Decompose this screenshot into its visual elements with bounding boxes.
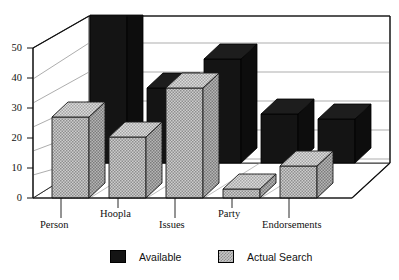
- bar-actual-search-hoopla: [109, 122, 162, 198]
- y-tick-label-50: 50: [2, 42, 22, 53]
- legend-label-actual-search: Actual Search: [247, 251, 312, 263]
- bar-actual-search-person: [52, 102, 105, 198]
- x-label-person: Person: [40, 219, 69, 230]
- bar-actual-search-issues: [166, 73, 219, 198]
- legend-item-available: Available: [110, 250, 181, 263]
- y-tick-label-30: 30: [2, 102, 22, 113]
- legend-label-available: Available: [139, 251, 181, 263]
- plot-area: 50 40 30 20 10 0 Person Hoopla Issues Pa…: [0, 0, 399, 280]
- x-label-party: Party: [218, 208, 240, 219]
- x-label-endorsements: Endorsements: [262, 219, 322, 230]
- y-tick-label-10: 10: [2, 162, 22, 173]
- chart-legend: Available Actual Search: [0, 247, 399, 269]
- x-label-hoopla: Hoopla: [100, 208, 131, 219]
- bar-chart-3d-canvas: [0, 0, 399, 280]
- x-label-issues: Issues: [159, 219, 185, 230]
- dark-swatch-icon: [110, 250, 126, 263]
- y-tick-label-0: 0: [2, 192, 22, 203]
- y-tick-label-20: 20: [2, 132, 22, 143]
- y-axis-ticks: [27, 48, 33, 198]
- bar-actual-search-endorsements: [280, 151, 333, 198]
- x-axis-ticks: [61, 198, 289, 218]
- legend-item-actual-search: Actual Search: [218, 250, 312, 263]
- chart-figure: 50 40 30 20 10 0 Person Hoopla Issues Pa…: [0, 0, 399, 280]
- y-tick-label-40: 40: [2, 72, 22, 83]
- grey-swatch-icon: [218, 250, 234, 263]
